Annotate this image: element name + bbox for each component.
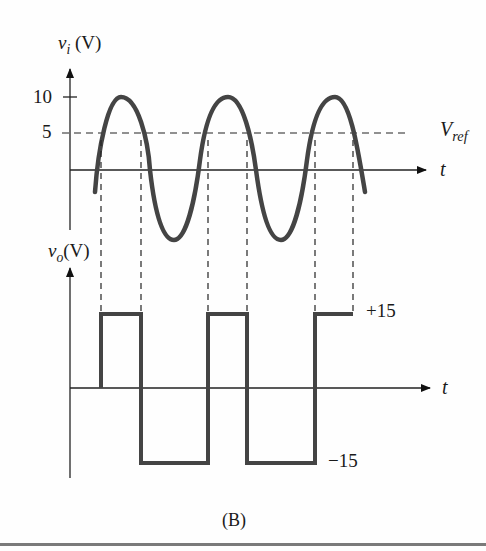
vo-sub: o — [56, 250, 63, 265]
top-t-label: t — [440, 158, 446, 181]
vi-axis-label: vi (V) — [58, 32, 101, 54]
vo-axis-label: vo(V) — [48, 240, 90, 262]
bottom-t-label: t — [442, 376, 448, 399]
vref-sub: ref — [452, 128, 467, 144]
comparator-waveform-diagram — [0, 0, 486, 551]
figure-canvas: vi (V) 10 5 Vref t vo(V) +15 −15 t (B) — [0, 0, 486, 551]
vo-unit: (V) — [63, 240, 89, 261]
vi-unit: (V) — [75, 32, 101, 53]
vi-sub: i — [66, 42, 70, 57]
tick-label-5: 5 — [42, 121, 52, 143]
level-high-label: +15 — [366, 300, 396, 322]
crossing-guides — [101, 140, 353, 313]
vref-label: Vref — [440, 118, 468, 141]
level-low-label: −15 — [328, 450, 358, 472]
vref-var: V — [440, 118, 452, 140]
bottom-divider — [0, 543, 486, 546]
figure-caption: (B) — [222, 510, 246, 531]
tick-label-10: 10 — [33, 86, 52, 108]
vi-sine-wave — [95, 97, 365, 240]
top-plot — [62, 69, 426, 240]
